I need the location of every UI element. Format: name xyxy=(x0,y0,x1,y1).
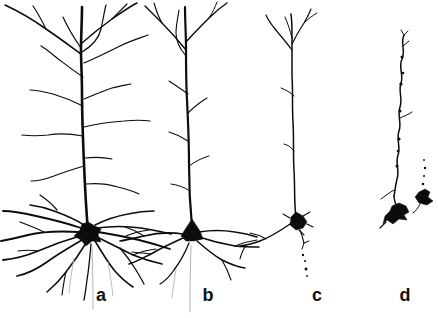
panel-label-d: d xyxy=(400,285,411,305)
dendrite-stroke xyxy=(284,144,294,151)
dendrite-stroke xyxy=(47,243,86,292)
drawing-layer xyxy=(1,2,433,312)
neuron-a-drawing xyxy=(1,3,171,309)
fragment-dot xyxy=(302,254,304,256)
dendrite-stroke xyxy=(84,84,131,99)
dendrite-stroke xyxy=(307,224,313,227)
dendrite-stroke xyxy=(394,35,404,196)
dendrite-stroke xyxy=(82,5,106,52)
dendrite-stroke xyxy=(84,244,91,300)
neuron-c-drawing xyxy=(240,9,317,277)
figure-canvas: a b c d xyxy=(0,0,438,318)
dendrite-stroke xyxy=(291,14,296,218)
dendrite-stroke xyxy=(394,196,396,205)
dendrite-stroke xyxy=(199,237,259,247)
dendrite-stroke xyxy=(31,166,84,181)
panel-label-a: a xyxy=(96,285,107,305)
dendrite-stroke xyxy=(413,204,420,213)
dendrite-stroke xyxy=(20,222,44,232)
dendrite-stroke xyxy=(85,157,112,159)
dendrite-stroke xyxy=(292,9,311,44)
neuron-degeneration-figure: a b c d xyxy=(0,0,438,318)
faint-axon-stroke xyxy=(172,270,176,298)
soma-blob xyxy=(383,203,409,224)
dendrite-stroke xyxy=(30,205,84,225)
dendrite-stroke xyxy=(98,232,170,249)
faint-axon-stroke xyxy=(92,247,93,309)
dendrite-stroke xyxy=(404,31,408,35)
dendrite-stroke xyxy=(33,6,46,29)
dendrite-stroke xyxy=(154,3,162,23)
dendrite-stroke xyxy=(381,190,394,199)
dendrite-stroke xyxy=(3,211,81,228)
dendrite-stroke xyxy=(18,250,38,251)
fragment-dot xyxy=(399,110,402,113)
dendrite-stroke xyxy=(400,112,412,118)
fragment-dot xyxy=(423,159,425,161)
dendrite-stroke xyxy=(302,243,304,249)
dendrite-stroke xyxy=(199,231,257,238)
fragment-dot xyxy=(397,137,400,140)
neuron-d-drawing xyxy=(380,30,433,228)
dendrite-stroke xyxy=(22,134,83,136)
dendrite-stroke xyxy=(169,132,188,141)
dendrite-stroke xyxy=(186,3,227,42)
fragment-dot xyxy=(305,268,308,271)
dendrite-stroke xyxy=(188,98,207,113)
dendrite-stroke xyxy=(401,30,404,35)
dendrite-stroke xyxy=(30,90,83,106)
dendrite-stroke xyxy=(303,212,310,216)
dendrite-stroke xyxy=(84,35,148,63)
dendrite-stroke xyxy=(380,222,386,228)
faint-axon-stroke xyxy=(69,258,74,293)
dendrite-stroke xyxy=(84,120,150,127)
dendrite-stroke xyxy=(209,2,217,18)
dendrite-stroke xyxy=(82,3,137,43)
soma-blob xyxy=(181,219,203,241)
dendrite-stroke xyxy=(304,241,309,243)
soma-blob xyxy=(415,189,433,205)
fragment-dot xyxy=(399,82,402,85)
dendrite-stroke xyxy=(403,41,409,46)
dendrite-stroke xyxy=(129,238,183,264)
fragment-dot xyxy=(423,175,425,177)
fragment-dot xyxy=(401,56,404,59)
dendrite-stroke xyxy=(95,241,133,287)
dendrite-stroke xyxy=(240,224,290,246)
dendrite-stroke xyxy=(145,6,186,50)
dendrite-stroke xyxy=(171,184,190,191)
dendrite-stroke xyxy=(189,156,209,166)
fragment-dot xyxy=(424,167,426,169)
dendrite-stroke xyxy=(169,81,188,94)
dendrite-stroke xyxy=(300,230,304,243)
panel-label-c: c xyxy=(312,285,322,305)
fragment-dot xyxy=(397,150,400,153)
neuron-b-drawing xyxy=(120,2,259,312)
dendrite-stroke xyxy=(95,211,154,225)
fragment-dot xyxy=(304,260,306,262)
fragment-dot xyxy=(396,165,399,168)
dendrite-stroke xyxy=(266,15,292,50)
fragment-dot xyxy=(306,275,308,277)
panel-label-b: b xyxy=(203,285,214,305)
fragment-dot xyxy=(402,72,405,75)
dendrite-stroke xyxy=(304,13,317,23)
dendrite-stroke xyxy=(86,184,139,194)
dendrite-stroke xyxy=(283,214,290,218)
dendrite-stroke xyxy=(112,4,127,19)
fragment-dot xyxy=(422,183,425,186)
faint-axon-stroke xyxy=(190,245,191,312)
